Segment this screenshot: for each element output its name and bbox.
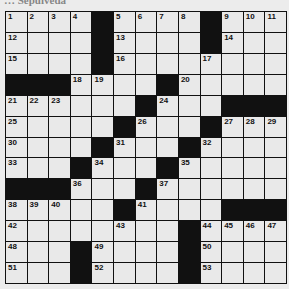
grid-cell[interactable]: 4: [71, 12, 92, 32]
grid-cell[interactable]: 15: [6, 54, 27, 74]
grid-cell[interactable]: [71, 96, 92, 116]
grid-cell[interactable]: 12: [6, 33, 27, 53]
grid-cell[interactable]: [136, 33, 157, 53]
grid-cell[interactable]: [114, 75, 135, 95]
grid-cell[interactable]: [157, 54, 178, 74]
grid-cell[interactable]: 14: [222, 33, 243, 53]
grid-cell[interactable]: 31: [114, 138, 135, 158]
grid-cell[interactable]: [244, 242, 265, 262]
grid-cell[interactable]: 36: [71, 179, 92, 199]
grid-cell[interactable]: 8: [179, 12, 200, 32]
grid-cell[interactable]: 32: [201, 138, 222, 158]
grid-cell[interactable]: [136, 221, 157, 241]
grid-cell[interactable]: [28, 263, 49, 283]
grid-cell[interactable]: [157, 33, 178, 53]
grid-cell[interactable]: 27: [222, 117, 243, 137]
grid-cell[interactable]: 42: [6, 221, 27, 241]
grid-cell[interactable]: [179, 33, 200, 53]
grid-cell[interactable]: [28, 242, 49, 262]
grid-cell[interactable]: [92, 200, 113, 220]
grid-cell[interactable]: [179, 96, 200, 116]
grid-cell[interactable]: 28: [244, 117, 265, 137]
grid-cell[interactable]: [28, 138, 49, 158]
grid-cell[interactable]: [201, 179, 222, 199]
grid-cell[interactable]: 10: [244, 12, 265, 32]
grid-cell[interactable]: [49, 158, 70, 178]
grid-cell[interactable]: [71, 117, 92, 137]
grid-cell[interactable]: 34: [92, 158, 113, 178]
grid-cell[interactable]: [28, 117, 49, 137]
grid-cell[interactable]: 46: [244, 221, 265, 241]
grid-cell[interactable]: 26: [136, 117, 157, 137]
grid-cell[interactable]: [222, 75, 243, 95]
grid-cell[interactable]: [136, 54, 157, 74]
grid-cell[interactable]: 48: [6, 242, 27, 262]
grid-cell[interactable]: [136, 242, 157, 262]
grid-cell[interactable]: 25: [6, 117, 27, 137]
grid-cell[interactable]: [157, 200, 178, 220]
grid-cell[interactable]: [222, 242, 243, 262]
grid-cell[interactable]: 49: [92, 242, 113, 262]
grid-cell[interactable]: [136, 263, 157, 283]
grid-cell[interactable]: [49, 33, 70, 53]
grid-cell[interactable]: [71, 200, 92, 220]
grid-cell[interactable]: [222, 263, 243, 283]
grid-cell[interactable]: 33: [6, 158, 27, 178]
grid-cell[interactable]: [49, 138, 70, 158]
grid-cell[interactable]: 1: [6, 12, 27, 32]
grid-cell[interactable]: [179, 117, 200, 137]
grid-cell[interactable]: [222, 54, 243, 74]
grid-cell[interactable]: [157, 242, 178, 262]
grid-cell[interactable]: [136, 75, 157, 95]
grid-cell[interactable]: [114, 158, 135, 178]
grid-cell[interactable]: 21: [6, 96, 27, 116]
grid-cell[interactable]: [244, 33, 265, 53]
grid-cell[interactable]: 47: [265, 221, 286, 241]
grid-cell[interactable]: 22: [28, 96, 49, 116]
grid-cell[interactable]: 24: [157, 96, 178, 116]
grid-cell[interactable]: [244, 179, 265, 199]
grid-cell[interactable]: [49, 54, 70, 74]
grid-cell[interactable]: [71, 221, 92, 241]
grid-cell[interactable]: [244, 75, 265, 95]
grid-cell[interactable]: 9: [222, 12, 243, 32]
grid-cell[interactable]: [265, 179, 286, 199]
grid-cell[interactable]: [157, 221, 178, 241]
grid-cell[interactable]: [265, 138, 286, 158]
grid-cell[interactable]: [201, 200, 222, 220]
grid-cell[interactable]: 16: [114, 54, 135, 74]
grid-cell[interactable]: 19: [92, 75, 113, 95]
grid-cell[interactable]: [28, 54, 49, 74]
grid-cell[interactable]: 7: [157, 12, 178, 32]
grid-cell[interactable]: [92, 96, 113, 116]
grid-cell[interactable]: [265, 242, 286, 262]
grid-cell[interactable]: [244, 54, 265, 74]
grid-cell[interactable]: [28, 221, 49, 241]
grid-cell[interactable]: 20: [179, 75, 200, 95]
grid-cell[interactable]: 30: [6, 138, 27, 158]
grid-cell[interactable]: 39: [28, 200, 49, 220]
grid-cell[interactable]: [179, 179, 200, 199]
grid-cell[interactable]: 17: [201, 54, 222, 74]
grid-cell[interactable]: [244, 263, 265, 283]
grid-cell[interactable]: [28, 33, 49, 53]
grid-cell[interactable]: 23: [49, 96, 70, 116]
grid-cell[interactable]: 11: [265, 12, 286, 32]
grid-cell[interactable]: 40: [49, 200, 70, 220]
grid-cell[interactable]: [265, 75, 286, 95]
grid-cell[interactable]: 13: [114, 33, 135, 53]
grid-cell[interactable]: 44: [201, 221, 222, 241]
grid-cell[interactable]: [136, 158, 157, 178]
grid-cell[interactable]: 3: [49, 12, 70, 32]
grid-cell[interactable]: [265, 33, 286, 53]
grid-cell[interactable]: [49, 263, 70, 283]
grid-cell[interactable]: [92, 179, 113, 199]
grid-cell[interactable]: 45: [222, 221, 243, 241]
grid-cell[interactable]: [28, 158, 49, 178]
grid-cell[interactable]: [201, 96, 222, 116]
grid-cell[interactable]: 18: [71, 75, 92, 95]
grid-cell[interactable]: [49, 221, 70, 241]
grid-cell[interactable]: [71, 138, 92, 158]
grid-cell[interactable]: [201, 75, 222, 95]
grid-cell[interactable]: [114, 96, 135, 116]
